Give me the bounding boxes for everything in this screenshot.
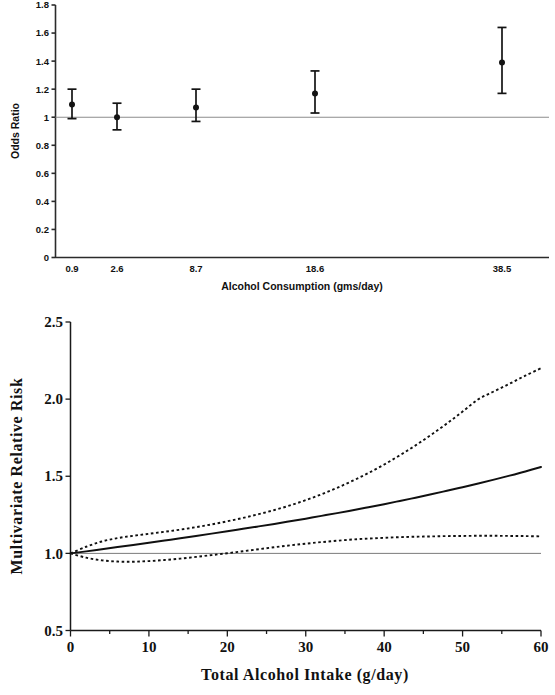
x-tick-label-bottom: 60 xyxy=(534,639,549,655)
y-axis-title-bottom: Multivariate Relative Risk xyxy=(8,378,25,575)
x-axis-title-bottom: Total Alcohol Intake (g/day) xyxy=(201,666,409,684)
y-tick-label-bottom: 2.0 xyxy=(44,391,63,407)
x-tick-label-bottom: 0 xyxy=(67,639,75,655)
axis-tick-marks-bottom xyxy=(66,322,542,637)
risk-curve-main xyxy=(71,467,542,553)
x-tick-label-top: 2.6 xyxy=(110,263,123,274)
x-tick-label-bottom: 20 xyxy=(220,639,235,655)
x-tick-label-bottom: 30 xyxy=(298,639,313,655)
y-tick-label-top: 1.6 xyxy=(36,27,49,38)
data-point-marker xyxy=(114,114,120,120)
y-axis-tick-labels-bottom: 0.51.01.52.02.5 xyxy=(44,314,63,639)
relative-risk-chart: 0.51.01.52.02.5 0102030405060 Total Alco… xyxy=(0,300,555,695)
risk-curve-lower-ci xyxy=(71,536,542,562)
y-axis-title-top: Odds Ratio xyxy=(9,103,21,159)
y-tick-label-bottom: 1.0 xyxy=(44,546,63,562)
risk-curves-group xyxy=(71,368,542,561)
x-tick-label-bottom: 50 xyxy=(455,639,470,655)
y-tick-label-top: 1.8 xyxy=(36,0,49,10)
risk-curve-upper-ci xyxy=(71,368,542,553)
data-point-marker xyxy=(193,104,199,110)
y-axis-tick-labels-top: 00.20.40.60.811.21.41.61.8 xyxy=(36,0,56,263)
relative-risk-chart-panel: 0.51.01.52.02.5 0102030405060 Total Alco… xyxy=(0,300,555,695)
y-tick-label-top: 0.8 xyxy=(36,140,49,151)
y-tick-label-top: 1.2 xyxy=(36,84,49,95)
y-tick-label-top: 0 xyxy=(44,252,49,263)
y-tick-label-bottom: 0.5 xyxy=(44,623,63,639)
x-tick-label-top: 8.7 xyxy=(189,263,202,274)
x-tick-label-bottom: 10 xyxy=(141,639,156,655)
x-tick-label-top: 18.6 xyxy=(306,263,325,274)
odds-ratio-point xyxy=(68,89,77,118)
y-tick-label-top: 1.4 xyxy=(36,56,50,67)
odds-ratio-point xyxy=(498,27,507,93)
y-tick-label-top: 0.6 xyxy=(36,168,49,179)
y-tick-label-top: 0.2 xyxy=(36,224,49,235)
x-axis-tick-labels-bottom: 0102030405060 xyxy=(67,639,549,655)
data-point-marker xyxy=(312,90,318,96)
x-axis-tick-labels-top: 0.92.68.718.638.5 xyxy=(65,263,512,274)
odds-ratio-point xyxy=(192,89,201,121)
x-tick-label-top: 38.5 xyxy=(493,263,512,274)
y-tick-label-top: 1 xyxy=(44,112,50,123)
x-tick-label-top: 0.9 xyxy=(65,263,78,274)
y-tick-label-bottom: 1.5 xyxy=(44,468,63,484)
data-point-marker xyxy=(499,60,505,66)
figure-root: 00.20.40.60.811.21.41.61.8 0.92.68.718.6… xyxy=(0,0,555,695)
x-tick-label-bottom: 40 xyxy=(377,639,392,655)
odds-ratio-chart-panel: 00.20.40.60.811.21.41.61.8 0.92.68.718.6… xyxy=(0,0,555,300)
odds-ratio-points-group xyxy=(68,27,507,129)
odds-ratio-chart: 00.20.40.60.811.21.41.61.8 0.92.68.718.6… xyxy=(0,0,555,300)
data-point-marker xyxy=(69,102,75,108)
x-axis-title-top: Alcohol Consumption (gms/day) xyxy=(221,280,383,292)
y-tick-label-bottom: 2.5 xyxy=(44,314,63,330)
odds-ratio-point xyxy=(113,103,122,130)
y-tick-label-top: 0.4 xyxy=(36,196,50,207)
odds-ratio-point xyxy=(311,71,320,113)
